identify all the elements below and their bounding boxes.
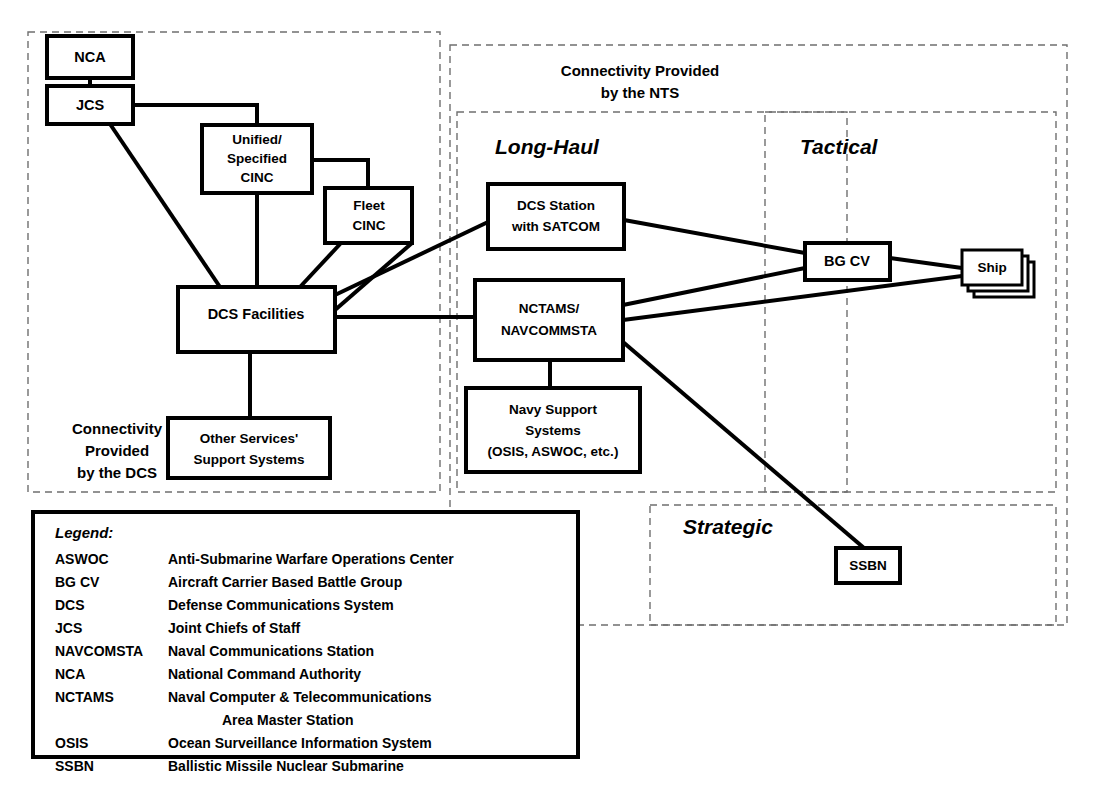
node-unified-cinc-label-line3: CINC [241,170,274,185]
node-ssbn[interactable]: SSBN [836,548,900,583]
legend-abbr: JCS [55,620,82,636]
connector-fleet-cinc-dcs-facilities [300,243,341,287]
connector-bg-cv-ship [890,258,962,268]
legend-row: NAVCOMSTA Naval Communications Station [55,643,374,659]
legend-desc: National Command Authority [168,666,361,682]
diagram-root: Connectivity Provided by the DCS Connect… [0,0,1093,794]
legend-abbr: BG CV [55,574,100,590]
legend-title: Legend: [55,524,113,541]
node-unified-specified-cinc[interactable]: Unified/ Specified CINC [202,125,312,193]
node-dcs-station-label-line2: with SATCOM [511,219,600,234]
node-jcs[interactable]: JCS [47,86,133,124]
node-dcs-station-satcom[interactable]: DCS Station with SATCOM [488,184,624,249]
legend-desc: Ballistic Missile Nuclear Submarine [168,758,404,774]
legend-desc: Ocean Surveillance Information System [168,735,432,751]
node-other-services-support-systems[interactable]: Other Services' Support Systems [168,418,330,478]
node-dcs-facilities-label: DCS Facilities [208,306,305,322]
node-fleet-cinc-label-line2: CINC [353,218,386,233]
node-nctams-label-line2: NAVCOMMSTA [501,323,597,338]
connector-nctams-ship [623,276,962,320]
node-fleet-cinc-label-line1: Fleet [353,198,385,213]
node-jcs-label: JCS [76,97,105,113]
tactical-region [765,112,1056,492]
legend-desc: Aircraft Carrier Based Battle Group [168,574,402,590]
node-nctams-label-line1: NCTAMS/ [519,301,580,316]
legend-abbr: NCTAMS [55,689,114,705]
node-unified-cinc-label-line2: Specified [227,151,287,166]
node-dcs-station-label-line1: DCS Station [517,198,595,213]
legend-desc: Joint Chiefs of Staff [168,620,301,636]
connector-dcs-station-bg-cv [624,220,805,253]
connector-unified-cinc-fleet-cinc [312,160,368,188]
node-navy-support-systems[interactable]: Navy Support Systems (OSIS, ASWOC, etc.) [466,388,640,472]
legend-desc: Defense Communications System [168,597,394,613]
long-haul-region-title: Long-Haul [495,135,600,158]
legend-abbr: NCA [55,666,85,682]
node-ship-label: Ship [977,260,1006,275]
connector-jcs-unified-cinc [133,105,257,125]
node-ssbn-label: SSBN [849,558,887,573]
nts-region-caption-line1: Connectivity Provided [561,62,719,79]
legend-abbr: SSBN [55,758,94,774]
legend-desc-continuation: Area Master Station [222,712,353,728]
dcs-region-caption-line1: Connectivity [72,420,163,437]
legend-abbr: NAVCOMSTA [55,643,143,659]
node-dcs-facilities[interactable]: DCS Facilities [178,287,335,352]
node-other-services-label-line1: Other Services' [200,431,299,446]
legend: Legend: ASWOC Anti-Submarine Warfare Ope… [33,512,578,774]
legend-abbr: ASWOC [55,551,109,567]
node-unified-cinc-label-line1: Unified/ [232,132,282,147]
strategic-region-title: Strategic [683,515,773,538]
legend-abbr: DCS [55,597,85,613]
tactical-region-title: Tactical [800,135,879,158]
dcs-region-caption-line2: Provided [85,442,149,459]
nts-region-caption-line2: by the NTS [601,84,679,101]
legend-abbr: OSIS [55,735,88,751]
node-nctams-navcommsta[interactable]: NCTAMS/ NAVCOMMSTA [475,280,623,360]
node-navy-support-label-line1: Navy Support [509,402,597,417]
legend-desc: Anti-Submarine Warfare Operations Center [168,551,454,567]
node-navy-support-label-line3: (OSIS, ASWOC, etc.) [488,444,619,459]
node-nca-label: NCA [74,49,106,65]
legend-row: SSBN Ballistic Missile Nuclear Submarine [55,758,404,774]
legend-desc: Naval Computer & Telecommunications [168,689,432,705]
node-bg-cv[interactable]: BG CV [805,243,890,280]
node-fleet-cinc[interactable]: Fleet CINC [325,188,412,243]
node-bg-cv-label: BG CV [824,253,870,269]
dcs-region-caption-line3: by the DCS [77,464,157,481]
node-navy-support-label-line2: Systems [525,423,581,438]
node-nca[interactable]: NCA [47,36,133,78]
node-other-services-label-line2: Support Systems [193,452,304,467]
node-ship[interactable]: Ship [962,250,1034,297]
legend-desc: Naval Communications Station [168,643,374,659]
connectivity-diagram: Connectivity Provided by the DCS Connect… [0,0,1093,794]
